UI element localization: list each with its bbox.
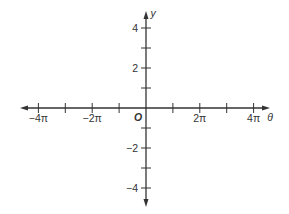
- y-axis: [144, 11, 149, 207]
- y-axis-label: y: [149, 7, 156, 19]
- x-tick-labels: −4π−2π2π4π: [29, 112, 260, 124]
- y-axis-down-arrow-icon: [144, 199, 149, 207]
- y-tick-label: 2: [132, 62, 138, 74]
- x-axis: [20, 106, 270, 111]
- x-tick-label: −4π: [29, 112, 48, 124]
- x-axis-label: θ: [267, 111, 273, 123]
- y-tick-label: −2: [126, 142, 138, 154]
- x-axis-right-arrow-icon: [262, 106, 270, 111]
- y-tick-label: −4: [126, 182, 138, 194]
- x-axis-left-arrow-icon: [20, 106, 28, 111]
- y-axis-up-arrow-icon: [144, 11, 149, 19]
- x-tick-label: 4π: [247, 112, 260, 124]
- x-tick-label: 2π: [193, 112, 206, 124]
- y-tick-label: 4: [132, 22, 138, 34]
- coordinate-plane: −4π−2π2π4π 42−2−4 O θ y: [0, 0, 289, 214]
- origin-label: O: [134, 111, 142, 123]
- x-tick-label: −2π: [83, 112, 102, 124]
